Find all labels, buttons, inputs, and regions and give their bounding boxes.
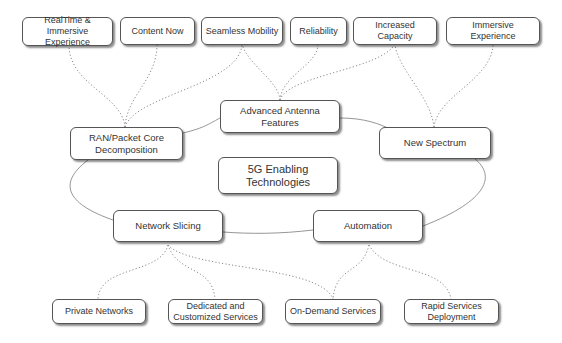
service-dedicated-customized: Dedicated and Customized Services (168, 299, 263, 324)
service-label: Deployment (421, 312, 482, 323)
benefit-label: RealTime & Immersive (26, 15, 109, 37)
service-label: Rapid Services (421, 301, 482, 312)
benefit-label: Reliability (299, 26, 338, 37)
benefit-label: Experience (26, 37, 109, 48)
service-label: Private Networks (65, 306, 133, 317)
service-connectors (98, 245, 451, 299)
tech-label: Automation (344, 220, 392, 232)
tech-label: New Spectrum (404, 137, 466, 149)
tech-label: Features (240, 117, 320, 129)
service-label: Customized Services (173, 312, 258, 323)
benefit-immersive-experience: Immersive Experience (446, 17, 540, 45)
center-label: Technologies (246, 176, 310, 189)
center-label: 5G Enabling (246, 163, 310, 176)
benefit-increased-capacity: Increased Capacity (353, 17, 437, 45)
service-on-demand: On-Demand Services (285, 299, 381, 324)
service-label: On-Demand Services (290, 306, 376, 317)
service-private-networks: Private Networks (52, 299, 146, 324)
tech-network-slicing: Network Slicing (113, 210, 223, 242)
tech-label: RAN/Packet Core (89, 132, 164, 144)
benefit-content-now: Content Now (120, 17, 195, 45)
tech-advanced-antenna: Advanced Antenna Features (220, 100, 340, 133)
service-rapid-deployment: Rapid Services Deployment (404, 299, 499, 324)
benefit-seamless-mobility: Seamless Mobility (201, 17, 283, 45)
benefit-label: Seamless Mobility (206, 26, 279, 37)
tech-new-spectrum: New Spectrum (379, 127, 491, 159)
tech-label: Network Slicing (135, 220, 200, 232)
tech-label: Advanced Antenna (240, 105, 320, 117)
benefit-label: Increased Capacity (357, 20, 433, 42)
benefit-reliability: Reliability (290, 17, 347, 45)
tech-label: Decomposition (89, 144, 164, 156)
benefit-realtime-immersive: RealTime & Immersive Experience (22, 17, 113, 46)
service-label: Dedicated and (173, 301, 258, 312)
center-5g-enabling-technologies: 5G Enabling Technologies (218, 157, 338, 194)
benefit-label: Content Now (131, 26, 183, 37)
benefit-label: Immersive Experience (450, 20, 536, 42)
tech-automation: Automation (313, 210, 423, 242)
tech-ran-packet-core: RAN/Packet Core Decomposition (70, 127, 183, 160)
